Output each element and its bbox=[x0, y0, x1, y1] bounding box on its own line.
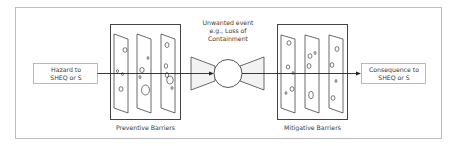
preventive-barriers-label: Preventive Barriers bbox=[110, 124, 181, 132]
top-event-line1: Unwanted event bbox=[203, 19, 254, 27]
mitigative-barrier-1 bbox=[281, 35, 295, 113]
top-event-label: Unwanted event e.g., Loss of Containment bbox=[188, 17, 268, 45]
top-event-line3: Containment bbox=[208, 35, 248, 43]
consequence-line1: Consequence to bbox=[369, 66, 419, 74]
consequence-label: Consequence to SHEQ or S bbox=[362, 64, 426, 84]
mitigative-barrier-2 bbox=[305, 35, 319, 113]
top-event-circle bbox=[214, 60, 242, 88]
consequence-line2: SHEQ or S bbox=[378, 74, 410, 82]
hazard-line2: SHEQ or S bbox=[50, 74, 82, 82]
hazard-label: Hazard to SHEQ or S bbox=[34, 64, 98, 84]
mitigative-barriers-label: Mitigative Barriers bbox=[277, 124, 348, 132]
hazard-line1: Hazard to bbox=[51, 66, 81, 74]
top-event-line2: e.g., Loss of bbox=[209, 27, 246, 35]
